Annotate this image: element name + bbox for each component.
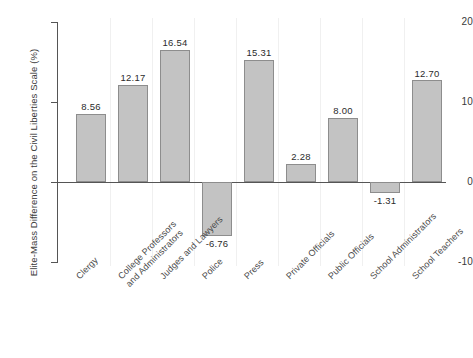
category-label-line1: Press [242, 257, 266, 281]
gridline-2 [152, 18, 153, 266]
bar-college-professors [118, 85, 148, 182]
bar-value-public-officials: 8.00 [313, 105, 373, 116]
bar-chart: 20 10 0 -10 Elite-Mass Difference on the… [0, 0, 473, 358]
bar-school-teachers [412, 80, 442, 182]
bar-value-press: 15.31 [229, 47, 289, 58]
gridline-3 [194, 18, 195, 266]
y-axis-line [57, 22, 58, 262]
bar-value-private-officials: 2.28 [271, 151, 331, 162]
y-tick-label-20: 20 [427, 17, 473, 27]
category-label-line1: Police [200, 256, 225, 281]
bar-clergy [76, 114, 106, 183]
y-axis-title: Elite-Mass Difference on the Civil Liber… [27, 38, 40, 288]
category-label-press: Press [242, 257, 266, 281]
bar-private-officials [286, 164, 316, 182]
y-tick-10 [51, 102, 58, 103]
bar-school-administrators [370, 182, 400, 193]
bar-value-college-professors: 12.17 [103, 72, 163, 83]
gridline-7 [362, 18, 363, 266]
y-tick-neg10 [51, 262, 58, 263]
y-tick-20 [51, 22, 58, 23]
bar-public-officials [328, 118, 358, 182]
gridline-8 [404, 18, 405, 266]
category-label-police: Police [200, 256, 226, 282]
category-label-line1: Clergy [74, 255, 100, 281]
bar-value-school-teachers: 12.70 [397, 68, 457, 79]
bar-press [244, 60, 274, 183]
bar-judges-and-lawyers [160, 50, 190, 182]
category-label-clergy: Clergy [74, 255, 101, 282]
bar-value-clergy: 8.56 [61, 101, 121, 112]
bar-value-judges-and-lawyers: 16.54 [145, 37, 205, 48]
gridline-6 [320, 18, 321, 266]
gridline-1 [110, 18, 111, 266]
bar-value-school-administrators: -1.31 [355, 195, 415, 206]
